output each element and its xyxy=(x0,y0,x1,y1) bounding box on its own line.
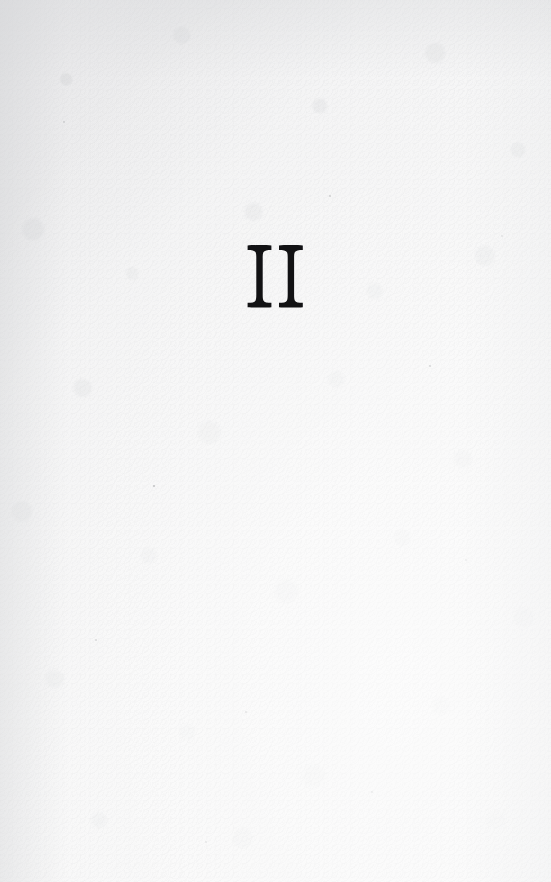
paper-vignette xyxy=(0,0,551,882)
roman-numeral-two-glyph: II xyxy=(246,243,306,311)
part-number-block: II xyxy=(0,243,551,311)
scanned-page: II xyxy=(0,0,551,882)
